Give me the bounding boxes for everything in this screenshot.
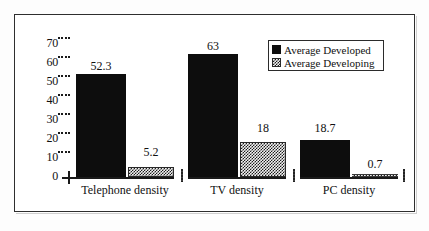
legend-swatch-solid-black-icon (272, 45, 281, 54)
x-axis-category-label-tv-density: TV density (177, 183, 297, 197)
y-axis-tick-mark-60 (58, 56, 70, 58)
x-axis-separator-tick-1 (181, 169, 183, 182)
y-axis-tick-label-70: 70 (46, 36, 58, 50)
x-axis-baseline-group-pc (300, 177, 398, 179)
y-axis-tick-label-40: 40 (46, 93, 58, 107)
y-axis-tick-mark-10 (58, 151, 70, 153)
y-axis-tick-label-0: 0 (52, 169, 58, 183)
plot-area: 70 60 50 40 30 20 10 0 (0, 0, 429, 231)
bar-tv-average-developed (188, 54, 238, 177)
value-label-telephone-developing: 5.2 (128, 146, 174, 159)
value-label-tv-developing: 18 (240, 122, 286, 135)
y-axis-tick-40: 40 (36, 93, 58, 107)
legend-label-average-developing: Average Developing (284, 57, 375, 69)
legend-swatch-checkered-gray-icon (272, 58, 281, 67)
y-axis-tick-mark-70 (58, 37, 70, 39)
legend-label-average-developed: Average Developed (284, 44, 371, 56)
bar-tv-average-developing (240, 142, 286, 177)
y-axis-tick-0: 0 (36, 169, 58, 183)
chart-legend: Average Developed Average Developing (268, 40, 384, 71)
y-axis-tick-mark-50 (58, 75, 70, 77)
y-axis-tick-10: 10 (36, 150, 58, 164)
bar-telephone-average-developed (76, 74, 126, 177)
legend-item-average-developed: Average Developed (272, 43, 380, 56)
y-axis-tick-label-20: 20 (46, 131, 58, 145)
value-label-tv-developed: 63 (188, 40, 238, 53)
x-axis-separator-tick-2 (293, 169, 295, 182)
bar-telephone-average-developing (128, 167, 174, 177)
y-axis-tick-label-10: 10 (46, 150, 58, 164)
y-axis-tick-70: 70 (36, 36, 58, 50)
y-axis-tick-mark-30 (58, 113, 70, 115)
legend-item-average-developing: Average Developing (272, 56, 380, 69)
bar-pc-average-developed (300, 140, 350, 177)
y-axis-tick-label-60: 60 (46, 55, 58, 69)
y-axis-tick-20: 20 (36, 131, 58, 145)
y-axis-tick-50: 50 (36, 74, 58, 88)
value-label-telephone-developed: 52.3 (76, 60, 126, 73)
x-axis-baseline-group-telephone (76, 177, 174, 179)
x-axis-category-label-pc-density: PC density (291, 183, 407, 197)
x-axis-category-label-telephone-density: Telephone density (60, 183, 190, 197)
y-axis-tick-30: 30 (36, 112, 58, 126)
x-axis-separator-tick-3 (403, 169, 405, 182)
bar-chart-figure: 70 60 50 40 30 20 10 0 (0, 0, 429, 231)
y-axis-tick-label-50: 50 (46, 74, 58, 88)
y-axis-tick-label-30: 30 (46, 112, 58, 126)
x-axis-baseline-group-tv (188, 177, 286, 179)
value-label-pc-developed: 18.7 (300, 122, 350, 135)
y-axis-tick-mark-20 (58, 132, 70, 134)
value-label-pc-developing: 0.7 (352, 158, 398, 171)
y-axis-tick-mark-40 (58, 94, 70, 96)
y-axis-tick-60: 60 (36, 55, 58, 69)
